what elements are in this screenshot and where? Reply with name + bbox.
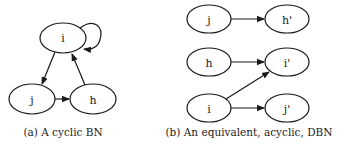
node-b-i: i	[187, 94, 231, 122]
node-b-h-prime: h'	[265, 5, 309, 33]
node-a-h: h	[70, 84, 116, 114]
edge-h-to-i	[72, 54, 85, 85]
node-label: i	[61, 32, 65, 45]
node-label: h	[205, 57, 212, 70]
node-label: j'	[282, 103, 290, 116]
node-a-i: i	[40, 23, 86, 53]
panel-b-graph: j h' h i' i j'	[187, 5, 309, 122]
node-label: h'	[282, 14, 292, 27]
node-b-j-prime: j'	[265, 94, 309, 122]
node-b-h: h	[187, 48, 231, 76]
node-b-i-prime: i'	[265, 48, 309, 76]
caption-panel-b: (b) An equivalent, acyclic, DBN	[166, 126, 333, 138]
edge-i-to-j	[42, 52, 55, 84]
node-b-j: j	[187, 5, 231, 33]
node-a-j: j	[9, 84, 55, 114]
panel-a-graph: i j h	[9, 23, 116, 114]
node-label: i	[207, 103, 211, 116]
node-label: i'	[284, 57, 291, 70]
edge-i-to-i-prime	[226, 72, 269, 99]
node-label: h	[89, 94, 96, 107]
caption-panel-a: (a) A cyclic BN	[23, 126, 102, 138]
